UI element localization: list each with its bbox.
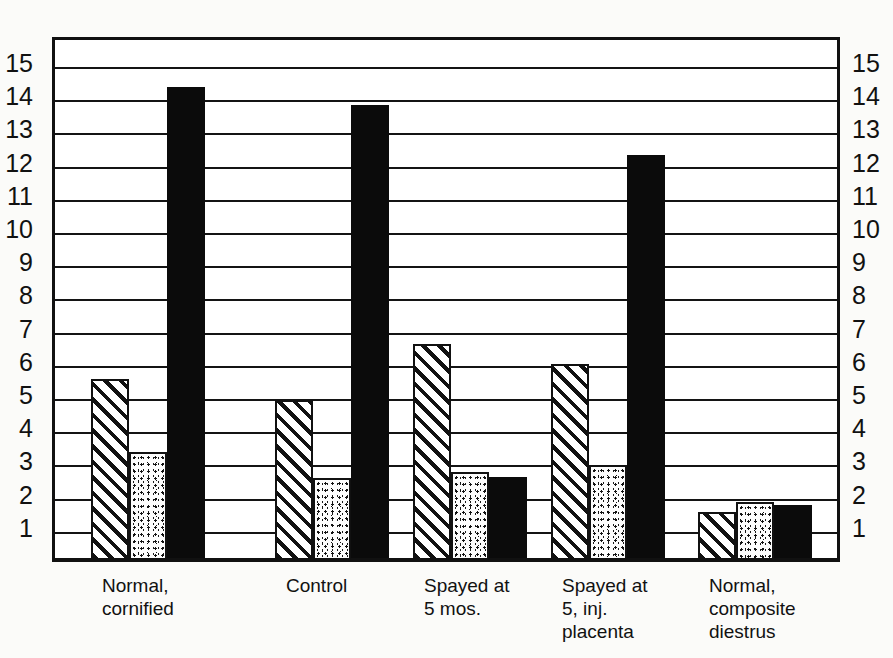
- y-tick-left-8: 8: [19, 283, 33, 308]
- y-tick-left-5: 5: [19, 383, 33, 408]
- y-tick-left-4: 4: [19, 416, 33, 441]
- y-tick-left-11: 11: [7, 184, 33, 209]
- y-tick-right-10: 10: [852, 217, 880, 242]
- bar-group2-hatched: [275, 400, 313, 558]
- x-category-label-1: Normal, cornified: [102, 574, 174, 620]
- bar-group4-stippled: [589, 465, 627, 558]
- y-tick-right-3: 3: [852, 449, 866, 474]
- y-tick-right-13: 13: [852, 117, 880, 142]
- x-category-label-5: Normal, composite diestrus: [709, 574, 796, 644]
- gridline-15: [55, 67, 837, 69]
- bar-group4-hatched: [551, 364, 589, 558]
- bar-group1-hatched: [91, 379, 129, 558]
- bar-group5-stippled: [736, 502, 774, 558]
- cut-off-caption: [700, 636, 893, 658]
- y-tick-left-6: 6: [19, 350, 33, 375]
- y-tick-left-13: 13: [5, 117, 33, 142]
- y-tick-left-3: 3: [19, 449, 33, 474]
- plot-area: [52, 37, 840, 562]
- y-tick-right-5: 5: [852, 383, 866, 408]
- y-tick-right-2: 2: [852, 483, 866, 508]
- y-tick-left-15: 15: [5, 51, 33, 76]
- bar-group1-solid: [167, 87, 205, 558]
- bar-group4-solid: [627, 155, 665, 558]
- bar-group3-stippled: [451, 472, 489, 558]
- y-tick-right-7: 7: [852, 317, 866, 342]
- y-tick-left-1: 1: [19, 516, 33, 541]
- bar-group2-stippled: [313, 478, 351, 558]
- y-tick-right-6: 6: [852, 350, 866, 375]
- chart-figure: 1514131211109876543211514131211109876543…: [0, 0, 893, 658]
- y-tick-left-7: 7: [19, 317, 33, 342]
- x-category-label-3: Spayed at 5 mos.: [424, 574, 510, 620]
- bar-group3-solid: [489, 477, 527, 558]
- x-category-label-4: Spayed at 5, inj. placenta: [562, 574, 648, 644]
- y-tick-right-12: 12: [852, 151, 880, 176]
- y-tick-left-2: 2: [19, 483, 33, 508]
- y-tick-left-12: 12: [5, 151, 33, 176]
- bar-group1-stippled: [129, 452, 167, 558]
- y-tick-right-4: 4: [852, 416, 866, 441]
- y-tick-left-14: 14: [5, 84, 33, 109]
- bar-group5-hatched: [698, 512, 736, 558]
- y-tick-right-8: 8: [852, 283, 866, 308]
- y-tick-right-14: 14: [852, 84, 880, 109]
- y-tick-left-9: 9: [19, 250, 33, 275]
- y-tick-right-9: 9: [852, 250, 866, 275]
- y-tick-right-15: 15: [852, 51, 880, 76]
- y-tick-left-10: 10: [5, 217, 33, 242]
- y-tick-right-1: 1: [852, 516, 866, 541]
- bar-group5-solid: [774, 505, 812, 558]
- bar-group2-solid: [351, 105, 389, 558]
- y-tick-right-11: 11: [852, 184, 878, 209]
- bar-group3-hatched: [413, 344, 451, 558]
- x-category-label-2: Control: [286, 574, 347, 597]
